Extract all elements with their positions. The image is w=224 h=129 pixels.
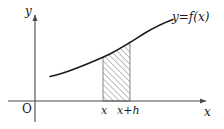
x-tick-label: x [101, 105, 107, 116]
figure-container: y x O x x+h y=f(x) [0, 0, 224, 129]
origin-label: O [22, 103, 32, 115]
x-axis-label: x [204, 106, 211, 118]
y-axis-label: y [25, 5, 32, 17]
x-plus-h-tick-label: x+h [117, 105, 140, 116]
curve-equation-label: y=f(x) [172, 11, 209, 23]
hatched-region [100, 38, 134, 104]
